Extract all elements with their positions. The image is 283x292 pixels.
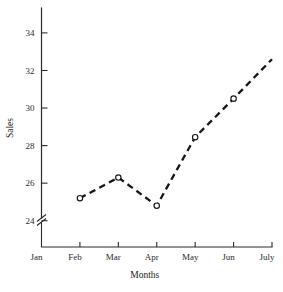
y-tick-label: 28 — [26, 141, 36, 151]
chart-canvas: 242628303234 Sales JanFebMarAprMayJunJul… — [0, 0, 283, 292]
y-axis-group: 242628303234 Sales — [5, 8, 48, 247]
x-tick-label: Mar — [106, 252, 121, 262]
sales-series-markers — [77, 96, 236, 208]
y-tick-label: 30 — [26, 103, 36, 113]
y-axis-title: Sales — [5, 118, 15, 138]
y-axis-break-icon — [37, 215, 46, 248]
y-tick-label: 32 — [26, 66, 35, 76]
line-chart-figure: 242628303234 Sales JanFebMarAprMayJunJul… — [0, 0, 283, 292]
x-tick-label: July — [259, 252, 275, 262]
x-axis-title: Months — [130, 270, 159, 280]
y-tick-marks — [42, 33, 48, 221]
x-tick-label: Jan — [31, 252, 43, 262]
data-point-marker — [77, 195, 82, 200]
y-tick-label: 24 — [26, 216, 36, 226]
x-tick-label: May — [182, 252, 199, 262]
x-tick-marks — [80, 242, 272, 247]
sales-series-line — [80, 59, 272, 206]
x-axis-group: JanFebMarAprMayJunJuly Months — [31, 242, 275, 280]
data-point-marker — [231, 96, 236, 101]
x-tick-label: Apr — [145, 252, 159, 262]
x-tick-label: Feb — [68, 252, 82, 262]
data-point-marker — [192, 134, 197, 139]
x-tick-labels: JanFebMarAprMayJunJuly — [31, 252, 275, 262]
y-tick-label: 26 — [26, 178, 36, 188]
y-tick-label: 34 — [26, 28, 36, 38]
y-tick-labels: 242628303234 — [26, 28, 36, 226]
x-tick-label: Jun — [222, 252, 235, 262]
series-group — [77, 59, 272, 208]
data-point-marker — [116, 175, 121, 180]
data-point-marker — [154, 203, 159, 208]
